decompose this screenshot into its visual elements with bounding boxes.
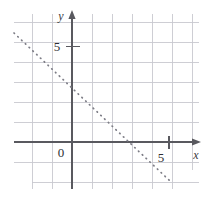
x-tick-label-5: 5 bbox=[158, 150, 165, 165]
y-axis-label: y bbox=[57, 9, 64, 23]
x-axis-label: x bbox=[192, 148, 199, 162]
y-axis-arrow-icon bbox=[68, 10, 75, 19]
x-axis-arrow-icon bbox=[192, 138, 201, 145]
y-tick-label-5: 5 bbox=[54, 39, 61, 54]
origin-label: 0 bbox=[58, 145, 65, 160]
coordinate-plane-svg: y x 0 5 5 bbox=[0, 0, 209, 197]
coordinate-plane-figure: y x 0 5 5 bbox=[0, 0, 209, 197]
grid-lines bbox=[14, 14, 199, 189]
